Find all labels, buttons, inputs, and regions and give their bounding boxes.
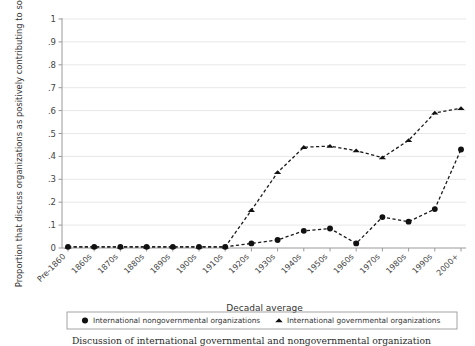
series-line (68, 150, 461, 247)
series-ingo (65, 147, 464, 250)
data-point (379, 214, 385, 220)
legend-label: International nongovernmental organizati… (93, 316, 260, 325)
legend-circle-icon (82, 317, 88, 323)
data-point (353, 149, 360, 153)
chart-svg: 0.1.2.3.4.5.6.7.8.91Pre-18601860s1870s18… (0, 0, 475, 346)
y-tick-label: .6 (48, 106, 56, 116)
data-point (327, 226, 333, 232)
x-tick-label: 1970s (358, 252, 382, 276)
x-tick-label: 1980s (384, 252, 408, 276)
legend-label: International governmental organizations (287, 316, 440, 325)
y-tick-label: 1 (51, 14, 56, 24)
x-tick-label: 1920s (227, 252, 251, 276)
y-tick-label: .9 (48, 37, 56, 47)
y-tick-label: .2 (48, 197, 56, 207)
data-point (457, 106, 464, 110)
y-tick-label: .8 (48, 60, 56, 70)
x-tick-label: 1880s (122, 252, 146, 276)
y-tick-label: .3 (48, 174, 56, 184)
data-point (248, 208, 255, 212)
chart-figure: 0.1.2.3.4.5.6.7.8.91Pre-18601860s1870s18… (0, 0, 475, 346)
y-tick-label: 0 (51, 243, 56, 253)
data-point (431, 111, 438, 115)
x-tick-label: 1930s (253, 252, 277, 276)
x-tick-label: Pre-1860 (36, 252, 68, 284)
data-point (406, 219, 412, 225)
data-point (432, 206, 438, 212)
x-tick-label: 1990s (411, 252, 435, 276)
x-tick-label: 1860s (70, 252, 94, 276)
y-tick-label: .5 (48, 129, 56, 139)
data-point (353, 240, 359, 246)
y-axis-title: Proportion that discuss organizations as… (14, 0, 24, 287)
x-tick-label: 1940s (280, 252, 304, 276)
x-tick-label: 1950s (306, 252, 330, 276)
data-point (275, 237, 281, 243)
y-tick-label: .1 (48, 220, 56, 230)
y-tick-label: .7 (48, 83, 56, 93)
figure-caption: Discussion of international governmental… (72, 335, 431, 346)
x-tick-label: 1910s (201, 252, 225, 276)
x-tick-label: 1900s (175, 252, 199, 276)
data-point (458, 147, 464, 153)
data-point (405, 138, 412, 142)
x-tick-label: 1960s (332, 252, 356, 276)
y-tick-label: .4 (48, 151, 56, 161)
x-tick-label: 2000+ (435, 252, 461, 278)
data-point (248, 240, 254, 246)
data-point (274, 170, 281, 174)
x-tick-label: 1870s (96, 252, 120, 276)
x-tick-label: 1890s (149, 252, 173, 276)
x-axis-title: Decadal average (226, 303, 303, 313)
series-igo (64, 106, 464, 248)
data-point (301, 228, 307, 234)
legend-triangle-icon (275, 318, 283, 322)
legend: International nongovernmental organizati… (67, 312, 457, 329)
y-gridlines: 0.1.2.3.4.5.6.7.8.91 (48, 14, 466, 253)
series-line (68, 108, 461, 247)
x-tick-group: Pre-18601860s1870s1880s1890s1900s1910s19… (36, 248, 461, 284)
